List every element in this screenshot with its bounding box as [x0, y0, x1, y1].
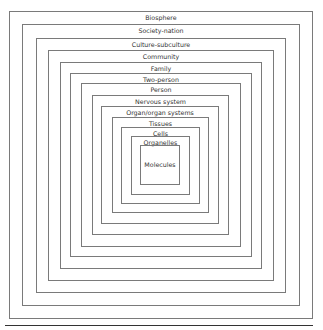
- level-label: Organ/organ systems: [102, 109, 218, 117]
- level-label: Society-nation: [23, 27, 299, 35]
- level-label: Nervous system: [93, 98, 228, 106]
- level-label: Molecules: [141, 161, 179, 169]
- level-label: Person: [82, 86, 240, 94]
- level-label: Family: [61, 65, 261, 73]
- level-label: Community: [49, 53, 273, 61]
- level-box-molecules: Molecules: [140, 145, 180, 185]
- bottom-rule: [5, 325, 313, 326]
- level-label: Biosphere: [10, 14, 312, 22]
- level-label: Culture-subculture: [37, 41, 285, 49]
